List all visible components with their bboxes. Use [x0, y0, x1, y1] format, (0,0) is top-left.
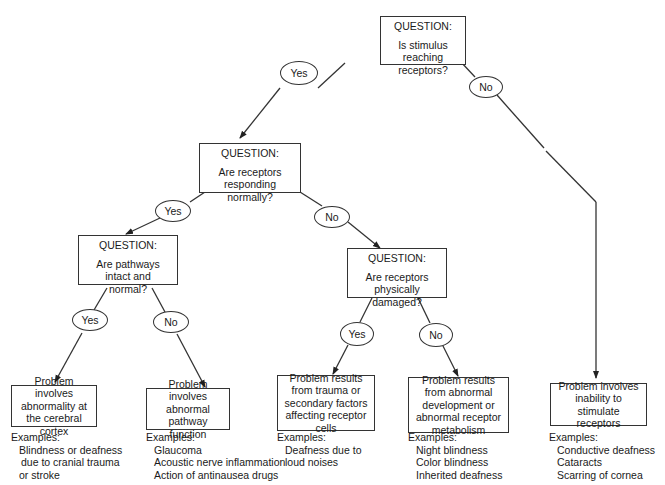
- examples-trauma: Examples: Deafness due to loud noises: [277, 431, 361, 469]
- outcome-box-inability-stimulate: Problem involves inability to stimulate …: [550, 383, 647, 426]
- example-item: Cataracts: [557, 456, 655, 469]
- answer-no-q1: No: [469, 76, 503, 98]
- outcome-box-cerebral-cortex: Problem involves abnormality at the cere…: [11, 385, 97, 427]
- answer-no-q4: No: [419, 323, 453, 347]
- question-box-stimulus-reaching: QUESTION: Is stimulus reaching receptors…: [380, 16, 466, 65]
- examples-inability-stimulate: Examples: Conductive deafness Cataracts …: [549, 431, 655, 481]
- outcome-text: Problem involves inability to stimulate …: [555, 380, 642, 430]
- example-item: Deafness due to: [285, 444, 361, 457]
- example-item: Conductive deafness: [557, 444, 655, 457]
- question-label: QUESTION:: [79, 239, 177, 252]
- examples-label: Examples:: [277, 431, 326, 443]
- example-item: or stroke: [19, 469, 122, 482]
- question-box-receptors-damaged: QUESTION: Are receptors physically damag…: [347, 248, 447, 298]
- outcome-text: Problem results from trauma or secondary…: [282, 372, 370, 435]
- question-text: Are receptors physically damaged?: [348, 271, 446, 309]
- question-text: Is stimulus reaching receptors?: [381, 39, 465, 77]
- outcome-box-abnormal-pathway: Problem involves abnormal pathway functi…: [146, 388, 230, 430]
- examples-abnormal-development: Examples: Night blindness Color blindnes…: [408, 431, 502, 481]
- examples-label: Examples:: [146, 431, 195, 443]
- question-label: QUESTION:: [381, 20, 465, 33]
- example-item: Acoustic nerve inflammation: [154, 456, 285, 469]
- answer-yes-q3: Yes: [72, 309, 108, 331]
- outcome-text: Problem results from abnormal developmen…: [413, 374, 504, 437]
- examples-label: Examples:: [408, 431, 457, 443]
- example-item: Scarring of cornea: [557, 469, 655, 482]
- answer-no-q2: No: [314, 206, 350, 228]
- example-item: Blindness or deafness: [19, 444, 122, 457]
- examples-label: Examples:: [11, 431, 60, 443]
- question-box-receptors-responding: QUESTION: Are receptors responding norma…: [199, 143, 301, 193]
- example-item: due to cranial trauma: [19, 456, 122, 469]
- question-text: Are pathways intact and normal?: [79, 258, 177, 296]
- example-item: Color blindness: [416, 456, 502, 469]
- examples-label: Examples:: [549, 431, 598, 443]
- examples-cerebral-cortex: Examples: Blindness or deafness due to c…: [11, 431, 122, 481]
- outcome-box-trauma: Problem results from trauma or secondary…: [277, 375, 375, 431]
- outcome-text: Problem involves abnormality at the cere…: [16, 375, 92, 438]
- question-label: QUESTION:: [200, 147, 300, 160]
- answer-yes-q2: Yes: [155, 200, 191, 222]
- example-item: loud noises: [285, 456, 361, 469]
- answer-yes-q1: Yes: [280, 61, 318, 85]
- question-box-pathways-intact: QUESTION: Are pathways intact and normal…: [78, 235, 178, 285]
- answer-yes-q4: Yes: [340, 322, 374, 346]
- answer-no-q3: No: [153, 311, 189, 333]
- examples-abnormal-pathway: Examples: Glaucoma Acoustic nerve inflam…: [146, 431, 285, 481]
- example-item: Glaucoma: [154, 444, 285, 457]
- example-item: Inherited deafness: [416, 469, 502, 482]
- question-text: Are receptors responding normally?: [200, 166, 300, 204]
- outcome-box-abnormal-development: Problem results from abnormal developmen…: [408, 377, 509, 433]
- question-label: QUESTION:: [348, 252, 446, 265]
- example-item: Action of antinausea drugs: [154, 469, 285, 482]
- example-item: Night blindness: [416, 444, 502, 457]
